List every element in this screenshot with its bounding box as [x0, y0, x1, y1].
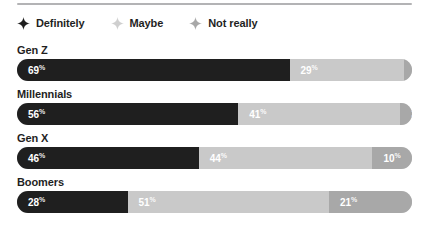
legend-label: Maybe	[130, 17, 164, 29]
bar-segment-number: 29	[301, 65, 312, 76]
bar-group: Gen Z69%29%2%	[0, 44, 428, 81]
bar-group: Gen X46%44%10%	[0, 132, 428, 169]
sparkle-icon	[111, 16, 124, 29]
percent-sign: %	[39, 152, 45, 159]
chart-legend: DefinitelyMaybeNot really	[17, 16, 283, 29]
bar-segment-value: 29%	[290, 64, 318, 76]
bar-segment-not-really[interactable]: 3%	[400, 103, 412, 125]
percent-sign: %	[39, 196, 45, 203]
bar-segment-number: 41	[249, 109, 260, 120]
stacked-bar-chart: DefinitelyMaybeNot really Gen Z69%29%2%M…	[0, 0, 428, 250]
bar-segment-value: 10%	[372, 152, 400, 164]
legend-item-definitely[interactable]: Definitely	[17, 16, 85, 29]
bar-segment-definitely[interactable]: 56%	[17, 103, 238, 125]
percent-sign: %	[39, 64, 45, 71]
bar-group-label: Gen Z	[17, 44, 428, 56]
bar-group-label: Millennials	[17, 88, 428, 100]
bar-segment-number: 10	[383, 153, 394, 164]
bar-segment-value: 46%	[17, 152, 45, 164]
bar-segment-number: 69	[28, 65, 39, 76]
stacked-bar: 69%29%2%	[17, 59, 412, 81]
bar-segment-maybe[interactable]: 29%	[290, 59, 405, 81]
bar-group-label: Gen X	[17, 132, 428, 144]
stacked-bar: 28%51%21%	[17, 191, 412, 213]
bar-segment-value: 69%	[17, 64, 45, 76]
percent-sign: %	[260, 108, 266, 115]
bar-segment-maybe[interactable]: 51%	[128, 191, 329, 213]
bar-segment-value: 28%	[17, 196, 45, 208]
percent-sign: %	[351, 196, 357, 203]
percent-sign: %	[39, 108, 45, 115]
bar-segment-value: 56%	[17, 108, 45, 120]
bar-segment-value: 2%	[404, 64, 412, 76]
bar-segment-value: 51%	[128, 196, 156, 208]
percent-sign: %	[394, 152, 400, 159]
bar-segment-number: 44	[210, 153, 221, 164]
bar-group-label: Boomers	[17, 176, 428, 188]
legend-item-not-really[interactable]: Not really	[189, 16, 257, 29]
legend-item-maybe[interactable]: Maybe	[111, 16, 164, 29]
bar-segment-value: 21%	[329, 196, 357, 208]
bar-segment-value: 3%	[400, 108, 412, 120]
percent-sign: %	[311, 64, 317, 71]
percent-sign: %	[150, 196, 156, 203]
bar-segment-definitely[interactable]: 69%	[17, 59, 290, 81]
bar-segment-not-really[interactable]: 10%	[372, 147, 412, 169]
bar-segment-value: 44%	[199, 152, 227, 164]
bar-segment-number: 56	[28, 109, 39, 120]
chart-groups: Gen Z69%29%2%Millennials56%41%3%Gen X46%…	[0, 44, 428, 220]
bar-segment-not-really[interactable]: 2%	[404, 59, 412, 81]
bar-segment-number: 28	[28, 197, 39, 208]
bar-segment-not-really[interactable]: 21%	[329, 191, 412, 213]
stacked-bar: 46%44%10%	[17, 147, 412, 169]
sparkle-icon	[17, 16, 30, 29]
bar-segment-number: 3	[411, 109, 412, 120]
bar-segment-value: 41%	[238, 108, 266, 120]
percent-sign: %	[221, 152, 227, 159]
sparkle-icon	[189, 16, 202, 29]
legend-label: Not really	[208, 17, 257, 29]
bar-segment-number: 46	[28, 153, 39, 164]
bar-segment-maybe[interactable]: 44%	[199, 147, 373, 169]
bar-segment-maybe[interactable]: 41%	[238, 103, 400, 125]
top-divider	[17, 3, 412, 5]
bar-segment-number: 51	[139, 197, 150, 208]
bar-segment-definitely[interactable]: 28%	[17, 191, 128, 213]
legend-label: Definitely	[36, 17, 85, 29]
bar-segment-definitely[interactable]: 46%	[17, 147, 199, 169]
bar-segment-number: 21	[340, 197, 351, 208]
stacked-bar: 56%41%3%	[17, 103, 412, 125]
bar-group: Millennials56%41%3%	[0, 88, 428, 125]
bar-group: Boomers28%51%21%	[0, 176, 428, 213]
